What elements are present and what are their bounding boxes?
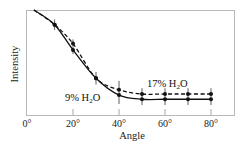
x-tick-label: 20° xyxy=(66,118,80,129)
data-point xyxy=(163,92,167,96)
data-point xyxy=(186,92,190,96)
series-label-17pct-h2o: 17% H2O xyxy=(147,78,188,91)
x-tick-label: 80° xyxy=(204,118,218,129)
data-point xyxy=(94,76,98,80)
x-tick-label: 0° xyxy=(23,118,32,129)
data-point xyxy=(209,97,213,101)
x-axis-label: Angle xyxy=(119,130,145,141)
x-tick-label: 60° xyxy=(158,118,172,129)
intensity-vs-angle-chart: 0°20°40°60°80° 17% H2O 9% H2O Angle Inte… xyxy=(0,0,245,149)
data-point xyxy=(53,23,57,27)
data-points xyxy=(53,23,213,102)
data-point xyxy=(71,42,75,46)
data-point xyxy=(209,92,213,96)
data-point xyxy=(140,97,144,101)
data-point xyxy=(117,88,121,92)
data-point xyxy=(71,48,75,52)
series-label-9pct-h2o: 9% H2O xyxy=(65,92,101,105)
x-tick-label: 40° xyxy=(112,118,126,129)
y-axis-label: Intensity xyxy=(9,45,20,82)
data-point xyxy=(163,97,167,101)
data-point xyxy=(117,93,121,97)
data-point xyxy=(140,92,144,96)
x-axis-ticks: 0°20°40°60°80° xyxy=(23,109,219,129)
data-point xyxy=(186,97,190,101)
